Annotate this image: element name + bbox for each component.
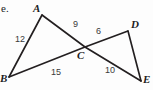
measure-label-ce: 10 — [105, 66, 115, 75]
vertex-label-b: B — [0, 73, 7, 84]
geometry-figure: e. A B C D E 12 9 15 6 10 — [0, 0, 153, 90]
vertex-label-d: D — [131, 19, 139, 30]
vertex-label-a: A — [33, 3, 40, 14]
measure-label-bc: 15 — [51, 68, 61, 77]
item-letter-label: e. — [1, 3, 9, 14]
vertex-label-c: C — [77, 50, 84, 61]
measure-label-ac: 9 — [73, 20, 78, 29]
figure-canvas — [0, 0, 153, 90]
line-a-to-b — [9, 15, 42, 77]
vertex-label-e: E — [143, 74, 150, 85]
measure-label-cd: 6 — [96, 27, 101, 36]
measure-label-ab: 12 — [15, 35, 25, 44]
